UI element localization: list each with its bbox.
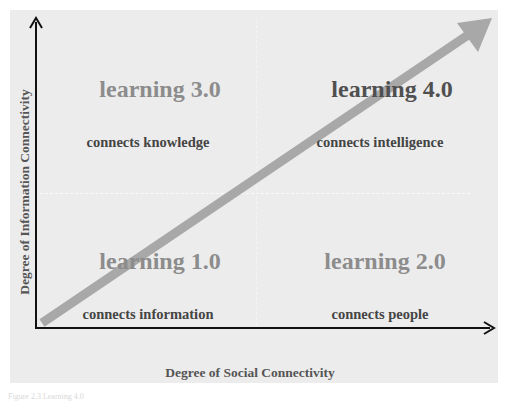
y-axis-label: Degree of Information Connectivity: [17, 89, 33, 295]
figure-caption: Figure 2.3 Learning 4.0: [8, 392, 84, 401]
quadrant-subtitle-learning-2: connects people: [331, 306, 428, 323]
quadrant-subtitle-learning-1: connects information: [83, 306, 214, 323]
quadrant-title-learning-4: learning 4.0: [331, 76, 452, 103]
growth-arrow-icon: [42, 18, 492, 323]
quadrant-subtitle-learning-4: connects intelligence: [317, 134, 444, 151]
quadrant-subtitle-learning-3: connects knowledge: [87, 134, 210, 151]
quadrant-title-learning-1: learning 1.0: [99, 248, 220, 275]
x-axis-arrow-icon: [35, 322, 494, 334]
quadrant-title-learning-3: learning 3.0: [99, 76, 220, 103]
quadrant-title-learning-2: learning 2.0: [324, 248, 445, 275]
x-axis-label: Degree of Social Connectivity: [165, 365, 335, 381]
axes-and-trend-arrow: [0, 0, 511, 404]
